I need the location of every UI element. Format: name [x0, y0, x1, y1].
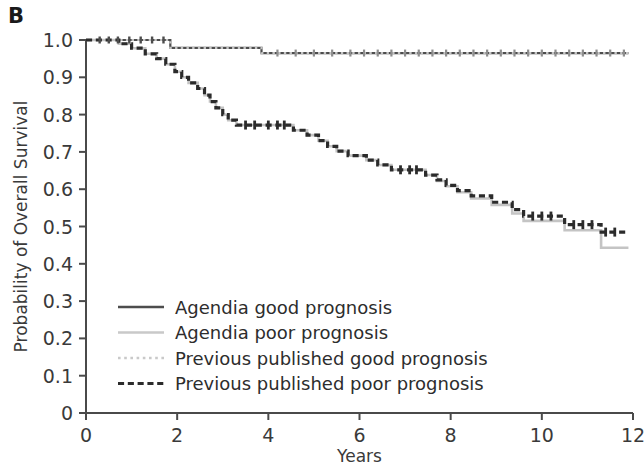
censor-marks-group: [100, 37, 624, 237]
y-tick-label: 0.9: [43, 66, 73, 88]
y-tick-labels: 00.10.20.30.40.50.60.70.80.91.0: [43, 29, 86, 424]
x-tick-label: 10: [530, 424, 554, 446]
y-tick-label: 0.2: [43, 327, 73, 349]
y-tick-label: 0.3: [43, 290, 73, 312]
x-tick-label: 0: [80, 424, 92, 446]
legend-label: Previous published good prognosis: [175, 348, 488, 369]
legend-label: Previous published poor prognosis: [175, 373, 484, 394]
y-tick-label: 0.1: [43, 365, 73, 387]
y-tick-label: 0.6: [43, 178, 73, 200]
x-tick-label: 12: [621, 424, 644, 446]
y-tick-label: 0.8: [43, 104, 73, 126]
y-tick-label: 0: [61, 402, 73, 424]
x-tick-labels: 024681012: [80, 413, 644, 446]
chart-legend: Agendia good prognosisAgendia poor progn…: [118, 297, 488, 395]
x-tick-label: 8: [445, 424, 457, 446]
x-tick-label: 4: [262, 424, 274, 446]
series-line: [86, 40, 628, 53]
x-tick-label: 2: [171, 424, 183, 446]
x-tick-label: 6: [353, 424, 365, 446]
y-tick-label: 0.7: [43, 141, 73, 163]
y-tick-label: 0.4: [43, 253, 73, 275]
y-tick-label: 0.5: [43, 216, 73, 238]
legend-label: Agendia good prognosis: [175, 297, 392, 318]
legend-label: Agendia poor prognosis: [175, 322, 388, 343]
series-group: [86, 40, 628, 248]
y-axis-title: Probability of Overall Survival: [11, 101, 31, 353]
survival-chart: 00.10.20.30.40.50.60.70.80.91.0 02468101…: [0, 0, 644, 468]
series-line: [86, 40, 628, 232]
chart-page: B 00.10.20.30.40.50.60.70.80.91.0 024681…: [0, 0, 644, 468]
y-tick-label: 1.0: [43, 29, 73, 51]
series-line: [86, 40, 628, 53]
x-axis-title: Years: [336, 446, 382, 466]
